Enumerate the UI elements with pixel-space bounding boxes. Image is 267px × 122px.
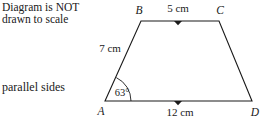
geometry-diagram-page: Diagram is NOT drawn to scale parallel s… <box>0 0 267 122</box>
parallel-arrow-ad-icon <box>174 101 182 105</box>
trapezium-figure: B C A D 5 cm 12 cm 7 cm 63° <box>0 0 267 122</box>
vertex-label-c: C <box>216 4 224 16</box>
vertex-label-d: D <box>250 106 260 118</box>
side-label-ab: 7 cm <box>99 42 121 54</box>
side-label-bc: 5 cm <box>167 2 189 14</box>
vertex-label-b: B <box>135 4 142 16</box>
parallel-arrow-bc-icon <box>174 21 182 25</box>
vertex-label-a: A <box>96 105 105 117</box>
angle-label-a: 63° <box>115 87 130 98</box>
side-label-ad: 12 cm <box>166 106 194 118</box>
